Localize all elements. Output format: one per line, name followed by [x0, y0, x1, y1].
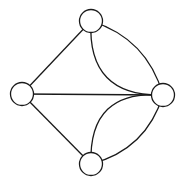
edge-top-right: [91, 21, 163, 95]
node-right: [152, 84, 175, 107]
node-left: [11, 83, 34, 106]
edge-top-right: [91, 21, 163, 95]
edge-left-bottom: [22, 94, 91, 164]
edge-left-top: [22, 21, 91, 94]
nodes: [11, 10, 175, 176]
node-top: [80, 10, 103, 33]
graph-diagram: [0, 0, 183, 186]
edge-bottom-right: [91, 95, 163, 164]
edges: [22, 21, 163, 164]
node-bottom: [80, 153, 103, 176]
edge-bottom-right: [91, 95, 163, 164]
